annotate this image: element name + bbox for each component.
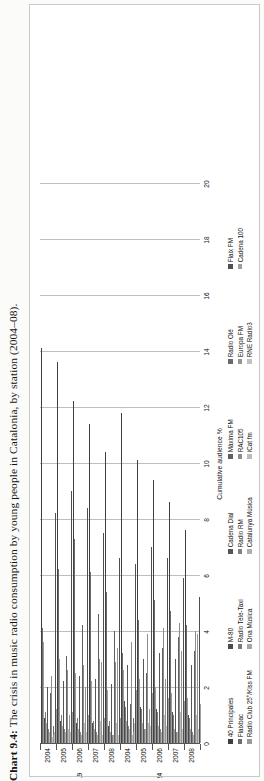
y-group-label: 2005	[60, 748, 67, 768]
figure-caption-number: Chart 9.4:	[7, 730, 19, 781]
x-gridline	[40, 295, 200, 296]
legend-item[interactable]: M-80	[226, 599, 235, 649]
y-axis-end-tick	[200, 744, 201, 750]
legend-label: Radio Club 25°/Kiss FM	[246, 670, 253, 737]
x-tick-label: 8	[203, 518, 210, 522]
y-group-tick	[56, 744, 57, 750]
legend-swatch-icon	[238, 644, 243, 649]
legend-swatch-icon	[247, 359, 252, 364]
x-axis-title: Cumulative audience %	[216, 184, 223, 744]
x-tick-label: 6	[203, 574, 210, 578]
y-group-tick	[72, 744, 73, 750]
x-gridline	[40, 351, 200, 352]
x-tick-label: 18	[203, 236, 210, 243]
legend-item[interactable]: 40 Principales	[226, 670, 235, 744]
legend-label: Cadena Dial	[227, 513, 234, 548]
y-group-tick	[40, 744, 41, 750]
bar	[101, 662, 102, 743]
legend-item[interactable]: Radio Club 25°/Kiss FM	[245, 670, 254, 744]
legend-swatch-icon	[238, 359, 243, 364]
legend-label: Radio Tele-Taxi	[237, 599, 244, 642]
legend-item[interactable]: Cadena 100	[235, 228, 244, 269]
figure-caption-body: The crisis in music radio consumption by…	[7, 304, 19, 728]
x-tick-label: 10	[203, 460, 210, 467]
legend-item[interactable]: Flaixbac	[235, 670, 244, 744]
y-group-tick	[136, 744, 137, 750]
age-band-label: 14-19	[76, 773, 83, 778]
legend-item[interactable]: Radio Olé	[226, 322, 235, 364]
bar	[71, 491, 72, 743]
bar	[103, 533, 104, 743]
legend-column: M-80Radio Tele-TaxiOna Música	[226, 599, 254, 649]
chart-frame: 024681012141618202004200520062007200814-…	[29, 4, 260, 777]
x-tick-label: 4	[203, 630, 210, 634]
legend-label: Flaixbac	[237, 714, 244, 737]
chart-rotation-host: 024681012141618202004200520062007200814-…	[30, 5, 261, 778]
legend-item[interactable]: Ona Música	[245, 599, 254, 649]
legend-label: Radio Olé	[227, 329, 234, 357]
bar	[131, 642, 132, 743]
chart-legend: 40 PrincipalesFlaixbacRadio Club 25°/Kis…	[226, 184, 258, 744]
y-group-tick	[120, 744, 121, 750]
legend-label: Cadena 100	[237, 228, 244, 262]
legend-label: RAC105	[237, 428, 244, 452]
plot-inner: 024681012141618202004200520062007200814-…	[40, 184, 200, 744]
y-group-tick	[168, 744, 169, 750]
x-tick-label: 14	[203, 348, 210, 355]
plot-area: 024681012141618202004200520062007200814-…	[40, 184, 200, 744]
legend-item[interactable]: Màxima FM	[226, 419, 235, 459]
legend-item[interactable]: Catalunya Música	[245, 497, 254, 554]
legend-item[interactable]: RAC105	[235, 419, 244, 459]
y-group-label: 2005	[140, 748, 147, 768]
y-group-label: 2004	[44, 748, 51, 768]
bar	[200, 704, 201, 743]
x-gridline	[40, 183, 200, 184]
legend-item[interactable]: Flaix FM	[226, 228, 235, 269]
x-tick-label: 0	[203, 742, 210, 746]
legend-label: RNE Radio3	[246, 322, 253, 357]
x-gridline	[40, 407, 200, 408]
legend-label: iCat fm	[246, 432, 253, 452]
legend-label: Radio RM	[237, 519, 244, 547]
y-group-tick	[88, 744, 89, 750]
bar	[51, 676, 52, 743]
legend-item[interactable]: Europa FM	[235, 322, 244, 364]
legend-column: Cadena DialRadio RMCatalunya Música	[226, 497, 254, 554]
legend-label: Europa FM	[237, 326, 244, 357]
legend-column: 40 PrincipalesFlaixbacRadio Club 25°/Kis…	[226, 670, 254, 744]
y-group-label: 2006	[156, 748, 163, 768]
y-group-label: 2007	[92, 748, 99, 768]
legend-item[interactable]: Radio Tele-Taxi	[235, 599, 244, 649]
chart-page: Chart 9.4: The crisis in music radio con…	[0, 0, 264, 781]
legend-column: Radio OléEuropa FMRNE Radio3	[226, 322, 254, 364]
legend-swatch-icon	[228, 454, 233, 459]
bar	[175, 659, 176, 743]
legend-label: Màxima FM	[227, 419, 234, 452]
legend-column: Màxima FMRAC105iCat fm	[226, 419, 254, 459]
legend-item[interactable]: Radio RM	[235, 497, 244, 554]
legend-swatch-icon	[238, 549, 243, 554]
x-tick-label: 20	[203, 180, 210, 187]
legend-swatch-icon	[228, 359, 233, 364]
legend-item[interactable]: Cadena Dial	[226, 497, 235, 554]
legend-swatch-icon	[247, 739, 252, 744]
legend-swatch-icon	[238, 739, 243, 744]
legend-swatch-icon	[228, 549, 233, 554]
legend-item[interactable]: RNE Radio3	[245, 322, 254, 364]
x-gridline	[40, 463, 200, 464]
y-group-tick	[104, 744, 105, 750]
legend-swatch-icon	[228, 644, 233, 649]
age-band-label: 20-24	[156, 773, 163, 778]
y-group-tick	[152, 744, 153, 750]
legend-swatch-icon	[238, 454, 243, 459]
legend-label: 40 Principales	[227, 698, 234, 738]
y-group-label: 2006	[76, 748, 83, 768]
y-group-label: 2008	[188, 748, 195, 768]
legend-item[interactable]: iCat fm	[245, 419, 254, 459]
chart-canvas: 024681012141618202004200520062007200814-…	[30, 5, 261, 778]
x-tick-label: 16	[203, 292, 210, 299]
legend-swatch-icon	[228, 264, 233, 269]
bar	[197, 634, 198, 743]
legend-swatch-icon	[247, 454, 252, 459]
legend-label: Flaix FM	[227, 238, 234, 262]
